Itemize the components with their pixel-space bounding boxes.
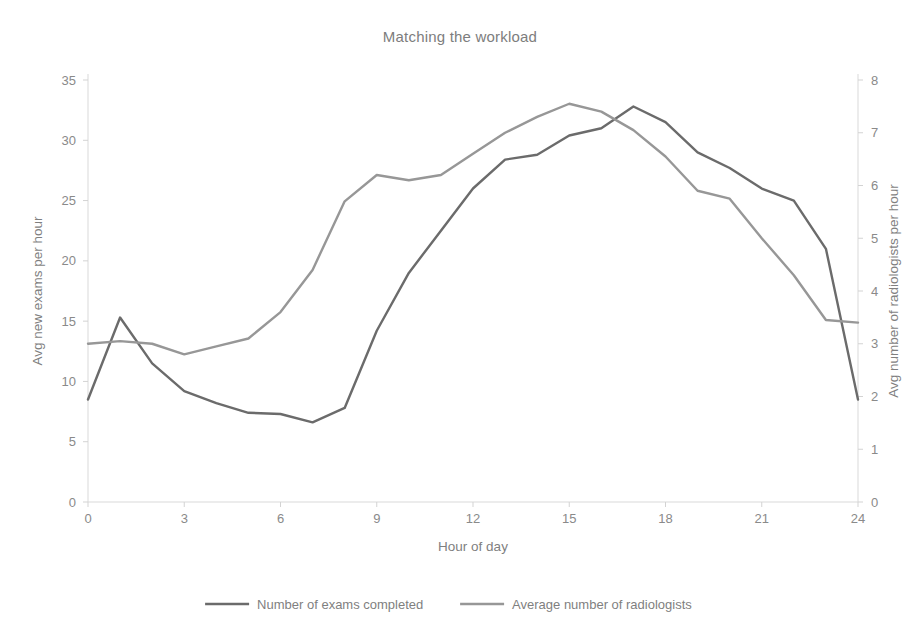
x-axis-tick-label: 21 (755, 511, 769, 526)
legend-label-2: Average number of radiologists (512, 597, 692, 612)
y-axis-right-tick-label: 6 (871, 178, 878, 193)
y-axis-left-tick-label: 30 (62, 133, 76, 148)
x-axis-tick-label: 18 (658, 511, 672, 526)
y-axis-left-tick-label: 25 (62, 193, 76, 208)
y-axis-left-tick-label: 10 (62, 374, 76, 389)
y-axis-left-title: Avg new exams per hour (30, 216, 45, 366)
x-axis-tick-label: 15 (562, 511, 576, 526)
x-axis-tick-label: 3 (181, 511, 188, 526)
x-axis-tick-label: 9 (373, 511, 380, 526)
chart-plot-area: 0510152025303501234567803691215182124Hou… (0, 0, 920, 641)
y-axis-left-tick-label: 20 (62, 253, 76, 268)
y-axis-left-tick-label: 15 (62, 314, 76, 329)
series-line-2 (88, 104, 858, 355)
x-axis-tick-label: 24 (851, 511, 865, 526)
series-group (88, 104, 858, 423)
y-axis-left-tick-label: 35 (62, 73, 76, 88)
y-axis-right-tick-label: 2 (871, 389, 878, 404)
x-axis-tick-label: 12 (466, 511, 480, 526)
y-axis-right-tick-label: 8 (871, 73, 878, 88)
axes-group: 0510152025303501234567803691215182124Hou… (30, 73, 901, 555)
x-axis-tick-label: 6 (277, 511, 284, 526)
y-axis-right-tick-label: 0 (871, 495, 878, 510)
legend-label-1: Number of exams completed (257, 597, 423, 612)
y-axis-right-tick-label: 3 (871, 336, 878, 351)
y-axis-right-tick-label: 4 (871, 284, 878, 299)
chart-legend: Number of exams completedAverage number … (205, 597, 692, 612)
y-axis-right-title: Avg number of radiologists per hour (886, 184, 901, 398)
chart-container: Matching the workload 051015202530350123… (0, 0, 920, 641)
x-axis-title: Hour of day (438, 539, 508, 554)
y-axis-right-tick-label: 7 (871, 125, 878, 140)
y-axis-right-tick-label: 1 (871, 442, 878, 457)
y-axis-right-tick-label: 5 (871, 231, 878, 246)
y-axis-left-tick-label: 0 (69, 495, 76, 510)
x-axis-tick-label: 0 (84, 511, 91, 526)
y-axis-left-tick-label: 5 (69, 434, 76, 449)
